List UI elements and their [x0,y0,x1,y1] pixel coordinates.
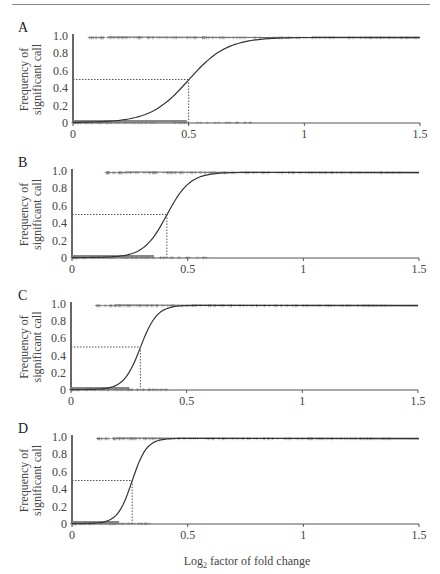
marker: + [108,34,112,42]
marker: + [135,254,139,262]
marker: + [241,435,245,443]
marker: + [159,386,163,394]
marker: + [236,119,240,127]
marker: + [165,386,169,394]
marker: + [339,169,343,177]
marker: + [162,254,166,262]
marker: + [147,34,151,42]
y-tick-label: 1.0 [52,164,67,178]
panel-a: AFrequency ofsignificant call00.511.500.… [17,20,428,141]
y-tick-label: 0.8 [53,46,68,60]
marker: + [137,34,141,42]
marker: + [362,435,366,443]
y-tick-label: 0.8 [52,181,67,195]
y-tick-label: 0.6 [52,465,67,479]
marker: + [206,119,210,127]
y-tick-label: 0.4 [51,349,66,363]
marker: + [110,302,114,310]
y-tick-label: 0.8 [51,314,66,328]
marker: + [195,254,199,262]
marker: + [186,34,190,42]
marker: + [335,169,339,177]
marker: + [276,435,280,443]
marker: + [388,34,392,42]
x-axis-label: Log2 factor of fold change [184,554,311,570]
marker: + [347,34,351,42]
marker: + [234,435,238,443]
marker: + [103,302,107,310]
marker: + [178,34,182,42]
marker: + [135,169,139,177]
marker: + [150,34,154,42]
marker: + [153,169,157,177]
panel-d: DFrequency ofsignificant call00.511.500.… [17,421,427,542]
marker: + [187,254,191,262]
marker: + [120,386,124,394]
y-tick-label: 0.6 [52,199,67,213]
marker: + [91,34,95,42]
marker: + [178,169,182,177]
panel-letter: C [18,288,27,303]
marker: + [358,169,362,177]
marker: + [94,386,98,394]
marker: + [341,302,345,310]
marker: + [368,435,372,443]
marker: + [291,169,295,177]
marker: + [330,435,334,443]
y-tick-label: 1.0 [52,430,67,444]
y-tick-label: 1.0 [53,29,68,43]
marker: + [193,34,197,42]
panel-letter: D [18,421,28,436]
marker: + [266,435,270,443]
marker: + [386,435,390,443]
marker: + [170,302,174,310]
x-tick-label: 1 [300,262,306,276]
marker: + [73,119,77,127]
marker: + [363,34,367,42]
marker: + [239,302,243,310]
marker: + [248,119,252,127]
marker: + [267,169,271,177]
y-tick-label: 0 [62,116,68,130]
marker: + [290,302,294,310]
marker: + [393,169,397,177]
y-tick-label: 0.4 [52,216,67,230]
marker: + [379,34,383,42]
x-tick-label: 0.5 [181,127,196,141]
marker: + [199,119,203,127]
marker: + [143,520,147,528]
marker: + [153,386,157,394]
marker: + [83,119,87,127]
x-tick-label: 1 [300,528,306,542]
marker: + [307,435,311,443]
marker: + [100,520,104,528]
y-tick-label: 0 [61,251,67,265]
marker: + [368,34,372,42]
marker: + [150,302,154,310]
y-axis-label: Frequency ofsignificant call [17,43,44,115]
marker: + [213,302,217,310]
y-tick-label: 0.2 [53,99,68,113]
marker: + [128,34,132,42]
marker: + [170,34,174,42]
marker: + [149,119,153,127]
marker: + [144,435,148,443]
marker: + [260,169,264,177]
marker: + [127,520,131,528]
marker: + [171,254,175,262]
marker: + [98,119,102,127]
panel-b: BFrequency ofsignificant call00.511.500.… [17,155,427,276]
marker: + [96,302,100,310]
marker: + [165,169,169,177]
marker: + [99,34,103,42]
marker: + [209,302,213,310]
marker: + [392,34,396,42]
marker: + [241,34,245,42]
marker: + [317,435,321,443]
figure: AFrequency ofsignificant call00.511.500.… [0,0,440,574]
y-tick-label: 0 [61,517,67,531]
marker: + [368,302,372,310]
marker: + [386,169,390,177]
marker: + [388,302,392,310]
marker: + [198,302,202,310]
